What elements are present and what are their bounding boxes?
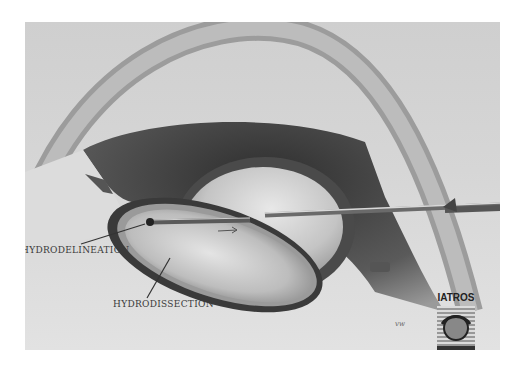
logo-text: IATROS bbox=[437, 292, 475, 303]
illustration-plate: HYDRODELINEATION HYDRODISSECTION vw bbox=[25, 22, 500, 350]
label-hydrodelineation: HYDRODELINEATION bbox=[25, 245, 130, 255]
tissue-fragment-right bbox=[370, 262, 390, 272]
eye-logo-icon bbox=[437, 306, 475, 350]
eye-anatomy-illustration bbox=[25, 22, 500, 350]
label-hydrodissection: HYDRODISSECTION bbox=[113, 299, 214, 309]
iatros-logo: IATROS bbox=[437, 292, 475, 350]
artist-signature: vw bbox=[395, 320, 405, 328]
